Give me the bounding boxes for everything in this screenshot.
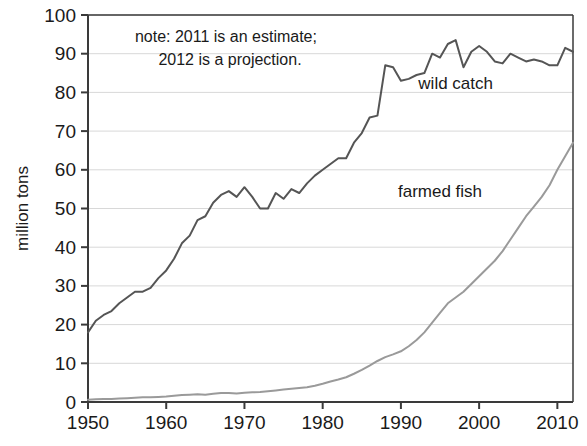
y-tick-label-100: 100 xyxy=(44,5,76,26)
x-tickmarks-group xyxy=(88,402,557,409)
note-line-2: 2012 is a projection. xyxy=(158,51,301,68)
y-axis-title-group: million tons xyxy=(13,166,32,251)
chart-note-group: note: 2011 is an estimate;2012 is a proj… xyxy=(135,28,317,68)
x-tick-label-2000: 2000 xyxy=(458,412,500,433)
y-tick-label-60: 60 xyxy=(55,159,76,180)
y-tick-labels-group: 0102030405060708090100 xyxy=(44,5,76,413)
series-label-wild-catch: wild catch xyxy=(417,74,493,93)
series-label-farmed-fish: farmed fish xyxy=(398,182,482,201)
x-tick-label-1980: 1980 xyxy=(302,412,344,433)
y-tick-label-90: 90 xyxy=(55,43,76,64)
x-tick-label-1970: 1970 xyxy=(223,412,265,433)
y-axis-title: million tons xyxy=(13,166,32,251)
x-tick-label-1990: 1990 xyxy=(380,412,422,433)
x-tick-label-1960: 1960 xyxy=(145,412,187,433)
y-tick-label-40: 40 xyxy=(55,237,76,258)
y-tick-label-50: 50 xyxy=(55,198,76,219)
chart-canvas: 0102030405060708090100 19501960197019801… xyxy=(0,0,587,446)
note-line-1: note: 2011 is an estimate; xyxy=(135,28,317,45)
series-line-wild-catch xyxy=(88,40,573,332)
y-tick-label-30: 30 xyxy=(55,275,76,296)
x-tick-label-2010: 2010 xyxy=(536,412,578,433)
y-tickmarks-group xyxy=(81,15,88,402)
y-tick-label-70: 70 xyxy=(55,121,76,142)
x-tick-label-1950: 1950 xyxy=(67,412,109,433)
series-lines-group xyxy=(88,40,573,400)
fisheries-production-chart: 0102030405060708090100 19501960197019801… xyxy=(0,0,587,446)
y-tick-label-20: 20 xyxy=(55,314,76,335)
y-tick-label-0: 0 xyxy=(65,392,76,413)
x-tick-labels-group: 1950196019701980199020002010 xyxy=(67,412,579,433)
series-line-farmed-fish xyxy=(88,143,573,400)
y-tick-label-10: 10 xyxy=(55,353,76,374)
y-tick-label-80: 80 xyxy=(55,82,76,103)
